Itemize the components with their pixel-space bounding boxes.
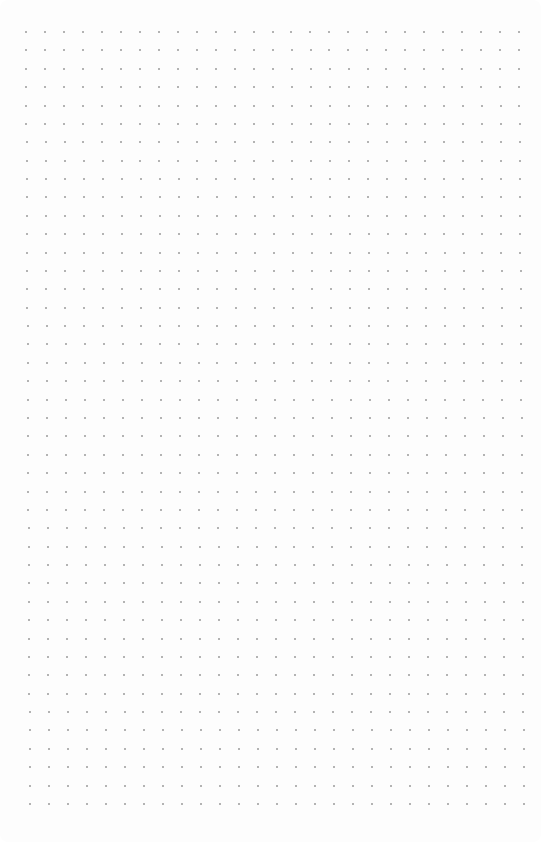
grid-dot (82, 86, 84, 88)
grid-dot (424, 233, 426, 235)
grid-dot (104, 656, 106, 658)
grid-dot (101, 31, 103, 33)
grid-dot (28, 546, 30, 548)
grid-dot (198, 527, 200, 529)
grid-dot (181, 748, 183, 750)
grid-dot (465, 582, 467, 584)
grid-dot (123, 674, 125, 676)
grid-dot (520, 399, 522, 401)
grid-dot (161, 582, 163, 584)
grid-dot (275, 601, 277, 603)
grid-dot (502, 509, 504, 511)
grid-dot (293, 546, 295, 548)
grid-dot (427, 656, 429, 658)
grid-dot (161, 693, 163, 695)
grid-dot (179, 491, 181, 493)
grid-dot (329, 68, 331, 70)
grid-dot (121, 270, 123, 272)
grid-dot (199, 582, 201, 584)
grid-dot (160, 527, 162, 529)
grid-dot (484, 693, 486, 695)
grid-dot (408, 619, 410, 621)
grid-dot (253, 49, 255, 51)
grid-dot (386, 215, 388, 217)
grid-dot (27, 435, 29, 437)
grid-dot (235, 362, 237, 364)
grid-dot (484, 582, 486, 584)
grid-dot (523, 766, 525, 768)
grid-dot (503, 638, 505, 640)
grid-dot (349, 307, 351, 309)
grid-dot (197, 288, 199, 290)
grid-dot (180, 619, 182, 621)
grid-dot (256, 546, 258, 548)
grid-dot (275, 582, 277, 584)
grid-dot (143, 766, 145, 768)
grid-dot (200, 803, 202, 805)
grid-dot (310, 123, 312, 125)
grid-dot (178, 215, 180, 217)
grid-dot (445, 417, 447, 419)
grid-dot (254, 252, 256, 254)
grid-dot (446, 711, 448, 713)
grid-dot (386, 141, 388, 143)
grid-dot (215, 105, 217, 107)
grid-dot (141, 362, 143, 364)
grid-dot (161, 546, 163, 548)
grid-dot (272, 31, 274, 33)
grid-dot (427, 564, 429, 566)
grid-dot (238, 766, 240, 768)
grid-dot (349, 362, 351, 364)
grid-dot (27, 491, 29, 493)
grid-dot (294, 638, 296, 640)
grid-dot (329, 160, 331, 162)
grid-dot (312, 527, 314, 529)
grid-dot (159, 215, 161, 217)
grid-dot (293, 454, 295, 456)
grid-dot (161, 619, 163, 621)
grid-dot (45, 141, 47, 143)
grid-dot (314, 803, 316, 805)
grid-dot (197, 233, 199, 235)
grid-dot (370, 656, 372, 658)
grid-dot (140, 288, 142, 290)
grid-dot (236, 472, 238, 474)
grid-dot (523, 748, 525, 750)
grid-dot (46, 491, 48, 493)
grid-dot (500, 178, 502, 180)
grid-dot (161, 564, 163, 566)
grid-dot (349, 325, 351, 327)
grid-dot (387, 380, 389, 382)
grid-dot (274, 491, 276, 493)
grid-dot (349, 288, 351, 290)
grid-dot (295, 766, 297, 768)
grid-dot (83, 160, 85, 162)
grid-dot (369, 546, 371, 548)
grid-dot (520, 380, 522, 382)
grid-dot (385, 49, 387, 51)
grid-dot (28, 619, 30, 621)
grid-dot (407, 527, 409, 529)
grid-dot (216, 325, 218, 327)
grid-dot (291, 178, 293, 180)
grid-dot (141, 454, 143, 456)
grid-dot (503, 601, 505, 603)
grid-dot (235, 270, 237, 272)
grid-dot (199, 693, 201, 695)
grid-dot (522, 674, 524, 676)
grid-dot (101, 86, 103, 88)
grid-dot (179, 380, 181, 382)
grid-dot (291, 160, 293, 162)
grid-dot (86, 711, 88, 713)
grid-dot (521, 509, 523, 511)
grid-dot (124, 711, 126, 713)
grid-dot (158, 68, 160, 70)
grid-dot (140, 178, 142, 180)
grid-dot (520, 307, 522, 309)
grid-dot (445, 454, 447, 456)
grid-dot (63, 49, 65, 51)
grid-dot (502, 491, 504, 493)
grid-dot (463, 325, 465, 327)
grid-dot (26, 215, 28, 217)
grid-dot (350, 527, 352, 529)
